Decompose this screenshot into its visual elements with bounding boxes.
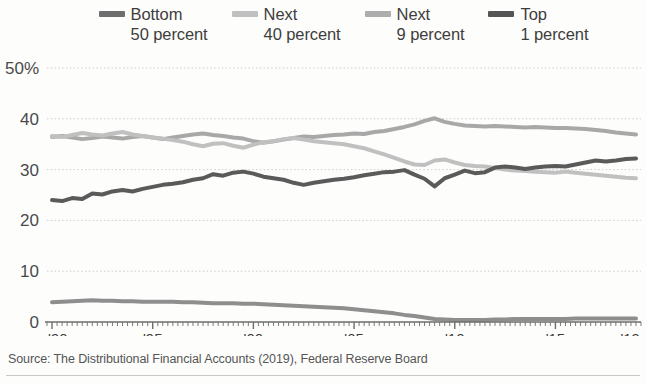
x-tick-label-15: '15: [546, 330, 566, 336]
y-tick-label-20: 20: [20, 211, 39, 230]
bottom-divider: [6, 375, 640, 376]
chart-figure: Bottom 50 percent Next 40 percent Next 9…: [0, 0, 647, 384]
chart-svg: 01020304050% '90'95'00'05'10'15'19: [0, 56, 647, 336]
legend-item-bottom-50[interactable]: Bottom 50 percent: [99, 4, 208, 44]
legend-label-bottom-50-line1: Bottom: [131, 5, 183, 23]
legend-item-top-1[interactable]: Top 1 percent: [488, 4, 588, 44]
x-tick-label-00: '00: [244, 330, 264, 336]
legend-swatch-next-40: [232, 11, 258, 17]
legend-swatch-bottom-50: [99, 11, 125, 17]
legend-label-top-1-line2: 1 percent: [520, 24, 588, 44]
source-note: Source: The Distributional Financial Acc…: [8, 352, 428, 366]
x-tick-label-10: '10: [445, 330, 465, 336]
legend-label-next-40: Next 40 percent: [264, 4, 341, 44]
legend-label-next-40-line2: 40 percent: [264, 24, 341, 44]
legend-label-top-1: Top 1 percent: [520, 4, 588, 44]
chart-gridlines: [47, 68, 641, 271]
x-tick-label-90: '90: [48, 330, 68, 336]
legend-label-bottom-50-line2: 50 percent: [131, 24, 208, 44]
chart-plot-area: 01020304050% '90'95'00'05'10'15'19: [0, 56, 647, 336]
chart-x-axis: [45, 322, 641, 329]
legend-label-top-1-line1: Top: [520, 5, 546, 23]
series-line-top-1-percent: [52, 158, 636, 201]
y-tick-label-0: 0: [30, 313, 39, 332]
y-tick-label-40: 40: [20, 110, 39, 129]
series-line-bottom-50-percent: [52, 300, 636, 320]
x-tick-label-05: '05: [344, 330, 364, 336]
legend-label-next-9-line2: 9 percent: [397, 24, 465, 44]
legend-swatch-next-9: [365, 11, 391, 17]
legend-label-next-9: Next 9 percent: [397, 4, 465, 44]
legend-item-next-40[interactable]: Next 40 percent: [232, 4, 341, 44]
legend-label-next-40-line1: Next: [264, 5, 298, 23]
y-tick-label-30: 30: [20, 161, 39, 180]
series-line-next-40-percent: [52, 132, 636, 178]
legend-label-next-9-line1: Next: [397, 5, 431, 23]
x-tick-label-95: '95: [143, 330, 163, 336]
legend-item-next-9[interactable]: Next 9 percent: [365, 4, 465, 44]
legend-label-bottom-50: Bottom 50 percent: [131, 4, 208, 44]
x-tick-label-19: '19: [620, 330, 640, 336]
y-tick-label-50: 50%: [5, 59, 39, 78]
series-line-next-9-percent: [52, 118, 636, 142]
legend-swatch-top-1: [488, 11, 514, 17]
chart-y-axis: 01020304050%: [5, 59, 39, 332]
chart-legend: Bottom 50 percent Next 40 percent Next 9…: [0, 4, 647, 54]
chart-x-tick-labels: '90'95'00'05'10'15'19: [48, 330, 640, 336]
chart-series-group: [52, 118, 636, 320]
y-tick-label-10: 10: [20, 262, 39, 281]
